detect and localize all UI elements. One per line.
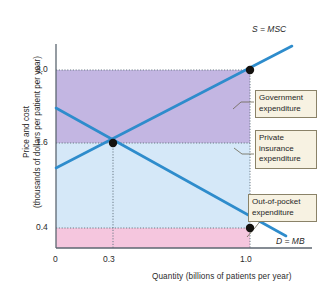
marker-equilibrium	[109, 139, 117, 147]
health-care-expenditure-chart: Price and cost (thousands of dollars per…	[0, 0, 321, 291]
x-tick-label-0: 0	[53, 254, 58, 264]
callout-government-expenditure: Government expenditure	[255, 90, 317, 118]
out-of-pocket-expenditure-region	[56, 228, 250, 248]
marker-msc-at-one	[246, 66, 254, 74]
y-tick-label-3-0: 3.0	[36, 64, 48, 74]
marker-mb-at-one	[246, 224, 254, 232]
x-tick-label-0-3: 0.3	[103, 254, 115, 264]
callout-out-of-pocket-expenditure: Out-of-pocket expenditure	[248, 194, 317, 222]
y-tick-label-1-6: 1.6	[36, 137, 48, 147]
callout-private-insurance-expenditure: Private insurance expenditure	[255, 130, 317, 169]
supply-curve-label: S = MSC	[252, 24, 286, 34]
government-expenditure-region	[56, 70, 250, 143]
x-axis-title: Quantity (billions of patients per year)	[152, 272, 292, 281]
x-tick-label-1-0: 1.0	[240, 254, 252, 264]
y-tick-label-0-4: 0.4	[36, 222, 48, 232]
y-axis-title-line-1: Price and cost	[21, 47, 32, 217]
private-insurance-expenditure-region	[56, 143, 250, 228]
demand-curve-label: D = MB	[276, 236, 305, 246]
